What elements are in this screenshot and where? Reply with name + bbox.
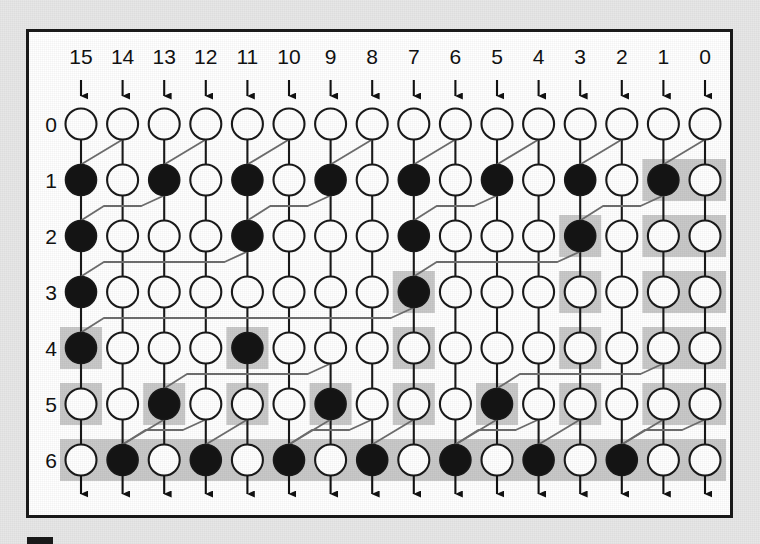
node-filled[interactable]: [274, 445, 305, 476]
node-open[interactable]: [357, 109, 388, 140]
node-open[interactable]: [690, 221, 721, 252]
node-open[interactable]: [315, 333, 346, 364]
node-open[interactable]: [606, 333, 637, 364]
node-open[interactable]: [440, 109, 471, 140]
node-open[interactable]: [398, 389, 429, 420]
node-open[interactable]: [149, 109, 180, 140]
node-open[interactable]: [398, 109, 429, 140]
node-filled[interactable]: [565, 221, 596, 252]
node-open[interactable]: [523, 109, 554, 140]
node-open[interactable]: [606, 109, 637, 140]
node-filled[interactable]: [523, 445, 554, 476]
node-open[interactable]: [523, 165, 554, 196]
node-filled[interactable]: [398, 165, 429, 196]
node-open[interactable]: [523, 333, 554, 364]
node-open[interactable]: [66, 389, 97, 420]
node-open[interactable]: [523, 277, 554, 308]
node-open[interactable]: [232, 445, 263, 476]
node-open[interactable]: [232, 277, 263, 308]
node-filled[interactable]: [149, 165, 180, 196]
node-open[interactable]: [440, 221, 471, 252]
node-open[interactable]: [482, 277, 513, 308]
node-open[interactable]: [190, 333, 221, 364]
node-open[interactable]: [274, 221, 305, 252]
node-open[interactable]: [190, 277, 221, 308]
node-filled[interactable]: [482, 389, 513, 420]
node-open[interactable]: [482, 445, 513, 476]
node-open[interactable]: [274, 389, 305, 420]
node-open[interactable]: [232, 109, 263, 140]
node-open[interactable]: [398, 445, 429, 476]
node-open[interactable]: [690, 389, 721, 420]
node-open[interactable]: [107, 221, 138, 252]
node-open[interactable]: [274, 109, 305, 140]
node-filled[interactable]: [107, 445, 138, 476]
node-open[interactable]: [274, 165, 305, 196]
node-filled[interactable]: [66, 165, 97, 196]
node-open[interactable]: [440, 165, 471, 196]
node-open[interactable]: [648, 445, 679, 476]
node-open[interactable]: [315, 109, 346, 140]
node-filled[interactable]: [398, 221, 429, 252]
node-open[interactable]: [690, 277, 721, 308]
node-open[interactable]: [440, 333, 471, 364]
node-open[interactable]: [274, 277, 305, 308]
node-open[interactable]: [149, 221, 180, 252]
node-filled[interactable]: [149, 389, 180, 420]
node-filled[interactable]: [232, 221, 263, 252]
node-filled[interactable]: [66, 221, 97, 252]
node-filled[interactable]: [232, 333, 263, 364]
node-open[interactable]: [565, 445, 596, 476]
node-open[interactable]: [190, 165, 221, 196]
node-open[interactable]: [315, 221, 346, 252]
node-filled[interactable]: [482, 165, 513, 196]
node-open[interactable]: [440, 277, 471, 308]
node-open[interactable]: [648, 109, 679, 140]
node-open[interactable]: [606, 165, 637, 196]
node-open[interactable]: [606, 221, 637, 252]
node-open[interactable]: [648, 221, 679, 252]
node-open[interactable]: [357, 333, 388, 364]
node-open[interactable]: [606, 277, 637, 308]
node-open[interactable]: [357, 277, 388, 308]
node-open[interactable]: [66, 109, 97, 140]
node-open[interactable]: [232, 389, 263, 420]
node-open[interactable]: [149, 445, 180, 476]
node-open[interactable]: [107, 389, 138, 420]
node-open[interactable]: [482, 221, 513, 252]
node-filled[interactable]: [190, 445, 221, 476]
node-open[interactable]: [482, 109, 513, 140]
node-open[interactable]: [357, 221, 388, 252]
node-open[interactable]: [648, 333, 679, 364]
node-open[interactable]: [523, 221, 554, 252]
node-filled[interactable]: [315, 389, 346, 420]
node-open[interactable]: [107, 109, 138, 140]
node-open[interactable]: [440, 389, 471, 420]
node-open[interactable]: [690, 109, 721, 140]
node-open[interactable]: [690, 333, 721, 364]
node-open[interactable]: [565, 389, 596, 420]
node-open[interactable]: [606, 389, 637, 420]
node-open[interactable]: [107, 165, 138, 196]
node-open[interactable]: [107, 333, 138, 364]
node-open[interactable]: [398, 333, 429, 364]
node-open[interactable]: [315, 445, 346, 476]
node-open[interactable]: [149, 333, 180, 364]
node-filled[interactable]: [66, 277, 97, 308]
node-open[interactable]: [482, 333, 513, 364]
node-open[interactable]: [190, 109, 221, 140]
node-filled[interactable]: [357, 445, 388, 476]
node-open[interactable]: [274, 333, 305, 364]
node-open[interactable]: [690, 445, 721, 476]
node-open[interactable]: [565, 109, 596, 140]
node-open[interactable]: [190, 221, 221, 252]
node-open[interactable]: [149, 277, 180, 308]
node-open[interactable]: [107, 277, 138, 308]
node-open[interactable]: [565, 277, 596, 308]
node-open[interactable]: [648, 389, 679, 420]
node-open[interactable]: [357, 165, 388, 196]
node-open[interactable]: [523, 389, 554, 420]
node-open[interactable]: [565, 333, 596, 364]
node-open[interactable]: [648, 277, 679, 308]
node-open[interactable]: [190, 389, 221, 420]
